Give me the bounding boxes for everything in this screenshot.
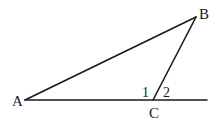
- triangle-diagram: A B C 1 2: [0, 0, 222, 125]
- vertex-label-b: B: [199, 6, 209, 22]
- angle-label-2: 2: [163, 85, 170, 100]
- segment-bc: [153, 17, 196, 100]
- vertex-label-a: A: [12, 93, 23, 109]
- angle-label-1: 1: [142, 85, 149, 100]
- vertex-label-c: C: [149, 105, 159, 121]
- segment-ab: [25, 17, 196, 100]
